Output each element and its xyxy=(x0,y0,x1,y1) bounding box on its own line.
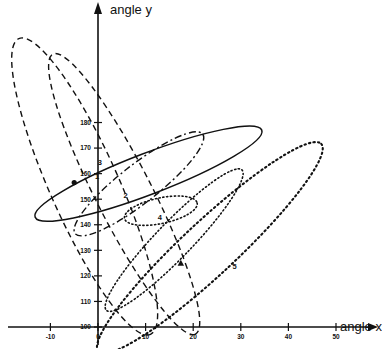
chart-container: -100102030405010011012013014015016017018… xyxy=(0,0,382,349)
y-tick-label: 140 xyxy=(80,221,91,228)
x-tick-label: -10 xyxy=(46,333,56,340)
axes-group xyxy=(8,2,378,345)
x-tick-label: 10 xyxy=(142,333,150,340)
y-tick-label: 160 xyxy=(80,170,91,177)
x-axis-title: angle x xyxy=(340,319,382,334)
scatter-plot-svg: -100102030405010011012013014015016017018… xyxy=(0,0,382,349)
y-tick-label: 170 xyxy=(80,144,91,151)
region-label-5: 5 xyxy=(233,262,237,271)
y-axis-arrowhead xyxy=(94,2,102,14)
region-label-3: 3 xyxy=(98,158,102,167)
y-axis-title: angle y xyxy=(110,2,152,17)
x-tick-label: 20 xyxy=(190,333,198,340)
x-tick-label: 0 xyxy=(96,333,100,340)
filled-circle-marker xyxy=(72,180,77,185)
region-ellipse-5 xyxy=(80,124,339,349)
region-label-2: 2 xyxy=(124,191,128,200)
region-ellipse-2 xyxy=(28,111,269,236)
region-label-1: 1 xyxy=(95,172,99,181)
y-tick-label: 180 xyxy=(80,119,91,126)
region-curves-group xyxy=(0,25,340,349)
x-tick-label: 30 xyxy=(237,333,245,340)
axis-ticks-group: -100102030405010011012013014015016017018… xyxy=(46,119,340,340)
y-tick-label: 100 xyxy=(80,323,91,330)
x-tick-label: 40 xyxy=(285,333,293,340)
y-tick-label: 150 xyxy=(80,196,91,203)
y-tick-label: 110 xyxy=(81,298,92,305)
y-tick-label: 120 xyxy=(80,272,91,279)
y-tick-label: 130 xyxy=(80,247,91,254)
x-tick-label: 50 xyxy=(332,333,340,340)
region-label-4: 4 xyxy=(158,213,163,222)
